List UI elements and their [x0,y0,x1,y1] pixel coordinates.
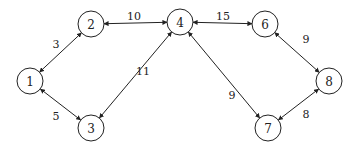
edge-line [278,89,318,120]
edge-weight-label: 9 [303,33,310,46]
node-label: 3 [87,122,95,136]
node-label: 6 [261,18,269,32]
edge-weight-label: 10 [127,10,141,23]
node-4: 4 [167,9,193,35]
edge-line [40,89,80,120]
edge-line [104,22,167,23]
node-label: 2 [87,18,95,32]
edge-4-7 [188,32,259,118]
edge-1-2 [39,33,81,72]
node-label: 8 [325,75,333,89]
edge-weight-label: 8 [303,108,310,121]
edge-4-6 [193,22,252,23]
edge-weight-label: 15 [216,10,230,23]
node-1: 1 [17,68,43,94]
node-7: 7 [255,115,281,141]
edge-line [193,22,252,23]
edge-weight-label: 5 [53,110,60,123]
edge-7-8 [278,89,318,120]
edge-line [275,33,320,73]
node-2: 2 [78,11,104,37]
node-label: 7 [264,122,272,136]
edge-weight-label: 9 [229,89,236,102]
edge-weight-label: 3 [53,38,60,51]
nodes-layer: 1234678 [17,9,342,141]
edge-6-8 [275,33,320,73]
edge-1-3 [40,89,80,120]
weighted-graph-diagram: 35101115998 1234678 [0,0,359,151]
edge-line [188,32,259,118]
node-6: 6 [252,11,278,37]
edges-layer [39,22,319,120]
edge-line [39,33,81,72]
node-8: 8 [316,68,342,94]
node-label: 1 [26,75,34,89]
edge-weight-label: 11 [136,65,150,78]
edge-2-4 [104,22,167,23]
node-label: 4 [176,16,184,30]
node-3: 3 [78,115,104,141]
